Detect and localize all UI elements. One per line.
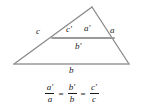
equals-sign-1: = xyxy=(57,89,64,99)
triangle-right-side xyxy=(92,7,129,64)
label-b-prime: b′ xyxy=(75,42,81,51)
label-c-prime: c′ xyxy=(66,25,72,34)
label-b: b xyxy=(69,66,74,75)
denominator-a: a xyxy=(47,95,54,104)
denominator-b: b xyxy=(69,95,76,104)
similar-triangles-figure: c c′ a′ a b′ b a′ a = b′ b = c′ c xyxy=(0,0,144,111)
numerator-c-prime: c′ xyxy=(90,83,98,92)
denominator-c: c xyxy=(91,95,97,104)
numerator-a-prime: a′ xyxy=(46,83,54,92)
triangle-left-side xyxy=(14,7,92,64)
fraction-b-prime-over-b: b′ b xyxy=(68,83,77,105)
label-c: c xyxy=(36,27,40,36)
label-a-prime: a′ xyxy=(84,24,90,33)
fraction-a-prime-over-a: a′ a xyxy=(45,83,54,105)
fraction-c-prime-over-c: c′ c xyxy=(90,83,99,105)
numerator-b-prime: b′ xyxy=(68,83,76,92)
equals-sign-2: = xyxy=(80,89,87,99)
proportion-equation: a′ a = b′ b = c′ c xyxy=(0,83,144,105)
label-a: a xyxy=(110,26,115,35)
